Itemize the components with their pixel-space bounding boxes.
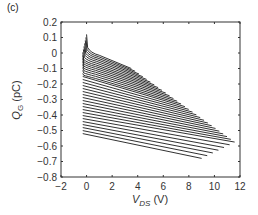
curve <box>83 128 213 153</box>
y-tick-label: −0.3 <box>37 94 57 105</box>
y-tick-label: −0.6 <box>37 141 57 152</box>
y-tick-label: −0.7 <box>37 156 57 167</box>
x-tick-label: 10 <box>209 181 221 192</box>
y-tick-label: 0 <box>51 48 57 59</box>
chart: −2024681012 0.20.10−0.1−0.2−0.3−0.4−0.5−… <box>0 0 258 215</box>
x-tick-label: 0 <box>84 181 90 192</box>
y-tick-label: −0.5 <box>37 125 57 136</box>
y-tick-label: 0.2 <box>43 17 57 28</box>
curve <box>83 73 181 103</box>
curve <box>83 134 202 159</box>
curve-family <box>83 34 235 158</box>
curve <box>83 79 189 109</box>
y-axis-label: QG (pC) <box>10 80 25 119</box>
y-tick-label: −0.8 <box>37 172 57 183</box>
x-tick-label: −2 <box>55 181 67 192</box>
x-tick-label: 4 <box>135 181 141 192</box>
curve <box>87 34 132 68</box>
x-tick-label: 12 <box>234 181 246 192</box>
x-tick-label: 8 <box>186 181 192 192</box>
x-tick-label: 2 <box>109 181 115 192</box>
y-tick-label: −0.1 <box>37 63 57 74</box>
x-axis-label: VDS (V) <box>132 193 168 208</box>
y-tick-label: −0.2 <box>37 79 57 90</box>
y-tick-label: −0.4 <box>37 110 57 121</box>
y-tick-label: 0.1 <box>43 32 57 43</box>
x-tick-label: 6 <box>161 181 167 192</box>
